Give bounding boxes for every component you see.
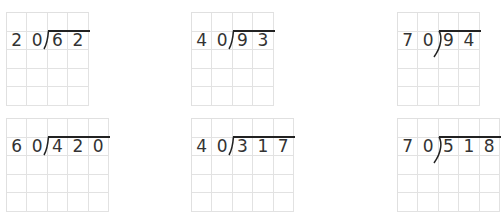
work-cell[interactable]: [7, 193, 27, 212]
work-cell[interactable]: [27, 69, 47, 88]
work-cell[interactable]: [212, 69, 232, 88]
work-cell[interactable]: [212, 50, 232, 69]
quotient-cell[interactable]: [68, 119, 88, 138]
work-cell[interactable]: [480, 175, 500, 194]
work-cell[interactable]: [233, 69, 253, 88]
work-cell[interactable]: [459, 156, 479, 175]
work-cell[interactable]: [89, 193, 109, 212]
quotient-cell[interactable]: [212, 119, 232, 138]
quotient-cell[interactable]: [418, 13, 438, 32]
work-cell[interactable]: [212, 193, 232, 212]
work-cell[interactable]: [480, 193, 500, 212]
quotient-cell[interactable]: [48, 13, 68, 32]
work-cell[interactable]: [439, 175, 459, 194]
work-cell[interactable]: [27, 175, 47, 194]
work-cell[interactable]: [480, 156, 500, 175]
work-cell[interactable]: [68, 50, 88, 69]
work-cell[interactable]: [253, 69, 273, 88]
work-cell[interactable]: [68, 87, 88, 106]
work-cell[interactable]: [459, 87, 479, 106]
quotient-cell[interactable]: [398, 13, 418, 32]
work-cell[interactable]: [274, 156, 294, 175]
work-cell[interactable]: [439, 69, 459, 88]
quotient-cell[interactable]: [89, 119, 109, 138]
work-cell[interactable]: [27, 87, 47, 106]
work-cell[interactable]: [233, 175, 253, 194]
quotient-cell[interactable]: [439, 119, 459, 138]
work-cell[interactable]: [398, 87, 418, 106]
work-cell[interactable]: [48, 175, 68, 194]
quotient-cell[interactable]: [480, 119, 500, 138]
quotient-cell[interactable]: [27, 119, 47, 138]
quotient-cell[interactable]: [212, 13, 232, 32]
work-cell[interactable]: [48, 50, 68, 69]
work-cell[interactable]: [7, 50, 27, 69]
work-cell[interactable]: [233, 193, 253, 212]
work-cell[interactable]: [233, 87, 253, 106]
work-cell[interactable]: [459, 50, 479, 69]
work-cell[interactable]: [459, 193, 479, 212]
work-cell[interactable]: [398, 156, 418, 175]
work-cell[interactable]: [27, 156, 47, 175]
work-cell[interactable]: [253, 156, 273, 175]
work-cell[interactable]: [274, 175, 294, 194]
work-cell[interactable]: [68, 175, 88, 194]
quotient-cell[interactable]: [253, 13, 273, 32]
work-cell[interactable]: [68, 193, 88, 212]
quotient-cell[interactable]: [192, 119, 212, 138]
quotient-cell[interactable]: [27, 13, 47, 32]
work-cell[interactable]: [7, 69, 27, 88]
work-cell[interactable]: [418, 193, 438, 212]
work-cell[interactable]: [439, 193, 459, 212]
quotient-cell[interactable]: [48, 119, 68, 138]
work-cell[interactable]: [192, 87, 212, 106]
work-cell[interactable]: [418, 175, 438, 194]
work-cell[interactable]: [48, 69, 68, 88]
work-cell[interactable]: [192, 175, 212, 194]
work-cell[interactable]: [398, 69, 418, 88]
quotient-cell[interactable]: [459, 119, 479, 138]
quotient-cell[interactable]: [7, 13, 27, 32]
work-cell[interactable]: [48, 87, 68, 106]
work-cell[interactable]: [192, 156, 212, 175]
work-cell[interactable]: [418, 69, 438, 88]
work-cell[interactable]: [253, 87, 273, 106]
quotient-cell[interactable]: [233, 13, 253, 32]
work-cell[interactable]: [192, 50, 212, 69]
work-cell[interactable]: [274, 193, 294, 212]
quotient-cell[interactable]: [439, 13, 459, 32]
work-cell[interactable]: [398, 193, 418, 212]
work-cell[interactable]: [459, 69, 479, 88]
work-cell[interactable]: [233, 156, 253, 175]
work-cell[interactable]: [398, 50, 418, 69]
quotient-cell[interactable]: [459, 13, 479, 32]
work-cell[interactable]: [192, 193, 212, 212]
work-cell[interactable]: [212, 156, 232, 175]
work-cell[interactable]: [253, 193, 273, 212]
work-cell[interactable]: [7, 175, 27, 194]
work-cell[interactable]: [253, 175, 273, 194]
work-cell[interactable]: [459, 175, 479, 194]
quotient-cell[interactable]: [418, 119, 438, 138]
quotient-cell[interactable]: [253, 119, 273, 138]
work-cell[interactable]: [7, 87, 27, 106]
quotient-cell[interactable]: [192, 13, 212, 32]
work-cell[interactable]: [418, 87, 438, 106]
work-cell[interactable]: [27, 193, 47, 212]
quotient-cell[interactable]: [274, 119, 294, 138]
work-cell[interactable]: [212, 175, 232, 194]
work-cell[interactable]: [89, 156, 109, 175]
quotient-cell[interactable]: [7, 119, 27, 138]
work-cell[interactable]: [68, 69, 88, 88]
work-cell[interactable]: [398, 175, 418, 194]
quotient-cell[interactable]: [68, 13, 88, 32]
work-cell[interactable]: [7, 156, 27, 175]
work-cell[interactable]: [27, 50, 47, 69]
work-cell[interactable]: [68, 156, 88, 175]
work-cell[interactable]: [233, 50, 253, 69]
work-cell[interactable]: [439, 87, 459, 106]
quotient-cell[interactable]: [233, 119, 253, 138]
quotient-cell[interactable]: [398, 119, 418, 138]
work-cell[interactable]: [212, 87, 232, 106]
work-cell[interactable]: [48, 156, 68, 175]
